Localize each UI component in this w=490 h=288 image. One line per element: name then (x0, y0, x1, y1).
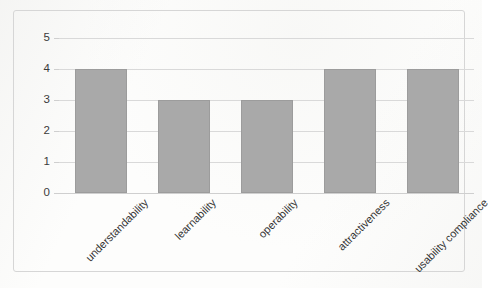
bars-group (59, 38, 474, 193)
category-label: usability compliance (412, 197, 489, 274)
bar-slot (59, 38, 142, 193)
bar[interactable] (75, 69, 127, 193)
gridline-0 (59, 193, 474, 194)
y-tick-mark-0 (54, 193, 59, 194)
y-tick-label-3: 3 (44, 94, 50, 106)
plot-area: 012345 (59, 38, 474, 193)
bar[interactable] (158, 100, 210, 193)
bar[interactable] (407, 69, 459, 193)
bar[interactable] (324, 69, 376, 193)
category-label: understandability (83, 197, 150, 264)
chart-frame: 012345 understandabilitylearnabilityoper… (13, 10, 465, 272)
category-label: operability (256, 197, 299, 240)
y-tick-label-2: 2 (44, 125, 50, 137)
category-label: learnability (173, 197, 218, 242)
bar-slot (391, 38, 474, 193)
category-label: attractiveness (335, 197, 391, 253)
y-tick-label-1: 1 (44, 156, 50, 168)
y-tick-label-5: 5 (44, 32, 50, 44)
y-tick-label-0: 0 (44, 187, 50, 199)
bar-slot (142, 38, 225, 193)
category-axis-labels: understandabilitylearnabilityoperability… (59, 195, 474, 288)
category-slot: usability compliance (391, 195, 474, 288)
bar[interactable] (241, 100, 293, 193)
bar-slot (308, 38, 391, 193)
category-slot: operability (225, 195, 308, 288)
category-slot: understandability (59, 195, 142, 288)
category-slot: learnability (142, 195, 225, 288)
y-tick-label-4: 4 (44, 63, 50, 75)
bar-slot (225, 38, 308, 193)
category-slot: attractiveness (308, 195, 391, 288)
